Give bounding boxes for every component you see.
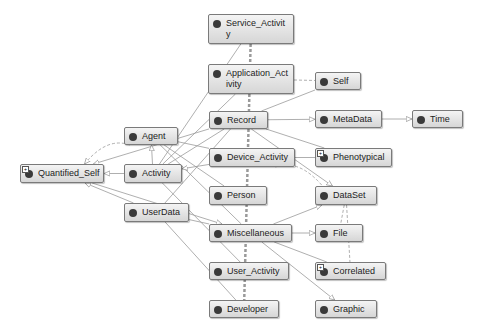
node-label: Self [333,76,349,87]
class-icon [213,20,221,28]
node-self[interactable]: Self [315,72,361,90]
node-label: Application_Act ivity [226,68,288,90]
node-graphic[interactable]: Graphic [315,300,377,318]
class-icon [320,116,328,124]
node-file[interactable]: File [315,224,363,242]
edge-miscellaneous-to-correlated [274,242,327,262]
node-label: MetaData [333,114,372,125]
class-icon [129,133,137,141]
node-agent[interactable]: Agent [124,127,178,145]
edge-service-activity-to-activity [159,44,240,164]
class-icon [214,192,222,200]
class-icon [214,268,222,276]
node-label: Device_Activity [227,152,288,163]
edge-userdata-to-quantified-self [85,183,133,203]
node-correlated[interactable]: +Correlated [315,262,386,280]
node-activity[interactable]: Activity [124,164,182,183]
node-label: File [333,228,348,239]
node-label: Person [227,190,256,201]
edge-miscellaneous-to-dataset [273,205,321,224]
node-label: Phenotypical [333,152,385,163]
node-label: User_Activity [227,266,280,277]
node-developer[interactable]: Developer [209,300,279,318]
node-label: Activity [142,168,171,179]
node-label: Correlated [333,266,375,277]
node-metadata[interactable]: MetaData [315,110,382,128]
class-icon [320,306,328,314]
class-icon [214,230,222,238]
node-dataset[interactable]: DataSet [315,186,377,205]
class-icon [129,170,137,178]
class-icon [320,230,328,238]
node-label: Time [430,114,450,125]
node-label: Graphic [333,304,365,315]
edge-dataset-to-file [341,205,345,224]
node-label: Agent [142,131,166,142]
node-label: Developer [227,304,268,315]
node-userdata[interactable]: UserData [124,203,189,222]
node-quantified-self[interactable]: +Quantified_Self [20,164,104,183]
node-label: Miscellaneous [227,228,284,239]
node-record[interactable]: Record [209,111,268,129]
class-icon [214,117,222,125]
node-time[interactable]: Time [412,110,463,128]
node-label: Record [227,115,256,126]
node-person[interactable]: Person [209,186,267,205]
node-label: Service_Activit y [226,18,285,40]
node-user-activity[interactable]: User_Activity [209,262,289,280]
class-icon [320,78,328,86]
node-phenotypical[interactable]: +Phenotypical [315,148,392,167]
edge-agent-to-quantified-self [85,143,130,164]
node-label: DataSet [333,190,366,201]
node-label: UserData [142,207,180,218]
node-application-activity[interactable]: Application_Act ivity [208,64,294,94]
class-icon [129,209,137,217]
node-device-activity[interactable]: Device_Activity [209,148,295,167]
ontology-graph-canvas[interactable]: Service_Activit yApplication_Act ivitySe… [0,0,482,336]
node-label: Quantified_Self [38,168,100,179]
class-icon [213,70,221,78]
class-icon [320,192,328,200]
node-miscellaneous[interactable]: Miscellaneous [209,224,292,242]
expand-icon[interactable]: + [22,166,29,173]
expand-icon[interactable]: + [317,150,324,157]
edge-activity-to-agent [151,145,152,164]
node-service-activity[interactable]: Service_Activit y [208,14,294,44]
class-icon [417,116,425,124]
class-icon [214,154,222,162]
class-icon [214,306,222,314]
expand-icon[interactable]: + [317,264,324,271]
edge-device-activity-to-dataset [276,165,323,186]
